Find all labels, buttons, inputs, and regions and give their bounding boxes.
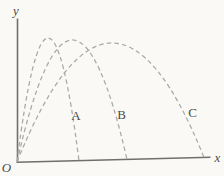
curve-label-b: B xyxy=(117,107,126,122)
y-axis-label: y xyxy=(11,3,19,18)
trajectory-plot: y O x A B C xyxy=(0,0,224,176)
figure-background xyxy=(0,0,224,176)
curve-label-a: A xyxy=(71,108,81,123)
physics-trajectory-figure: y O x A B C xyxy=(0,0,224,176)
x-axis-label: x xyxy=(214,150,221,165)
curve-label-c: C xyxy=(188,105,197,120)
origin-label: O xyxy=(2,160,12,175)
